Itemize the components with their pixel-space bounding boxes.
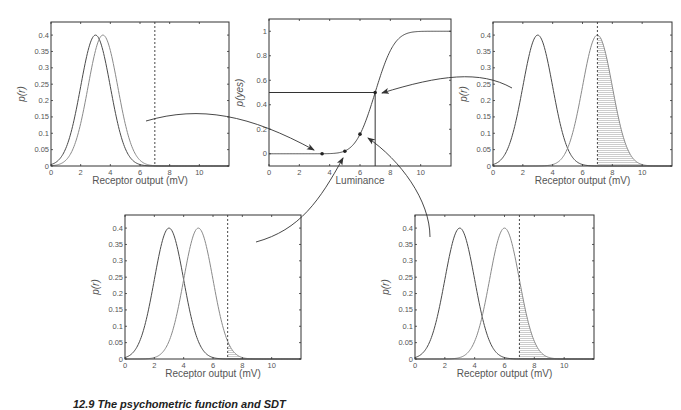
plot-frame: [493, 22, 672, 166]
y-tick-label: 0.2: [39, 96, 49, 105]
y-tick-label: 0.05: [476, 145, 491, 154]
x-tick-label: 2: [152, 361, 156, 370]
hit-area-shading: [519, 280, 594, 359]
x-tick-label: 2: [521, 168, 525, 177]
x-tick-label: 0: [267, 168, 271, 177]
y-tick-label: 0.2: [481, 96, 491, 105]
x-tick-label: 2: [297, 168, 301, 177]
y-tick-label: 0.4: [257, 100, 267, 109]
y-tick-label: 0.1: [403, 322, 413, 331]
y-tick-label: 1: [263, 27, 267, 36]
y-tick-label: 0.15: [398, 305, 413, 314]
panel-top-right: 024681000.050.10.150.20.250.30.350.4Rece…: [458, 22, 672, 186]
noise-distribution-curve: [415, 228, 594, 359]
y-tick-label: 0.35: [108, 240, 123, 249]
y-axis-label: p(r): [90, 279, 101, 296]
y-tick-label: 0.4: [113, 224, 123, 233]
y-tick-label: 0.05: [398, 338, 413, 347]
x-tick-label: 0: [413, 361, 417, 370]
y-tick-label: 0.25: [398, 273, 413, 282]
y-tick-label: 0: [487, 162, 491, 171]
y-tick-label: 0.05: [108, 338, 123, 347]
x-tick-label: 0: [491, 168, 495, 177]
y-axis-label: p(r): [16, 86, 27, 103]
y-tick-label: 0.4: [481, 31, 491, 40]
x-axis-label: Receptor output (mV): [535, 175, 631, 186]
y-tick-label: 0.35: [398, 240, 413, 249]
data-point: [358, 132, 362, 136]
data-point: [373, 91, 377, 95]
x-tick-label: 10: [416, 168, 424, 177]
y-axis-label: p(r): [458, 86, 469, 103]
x-tick-label: 0: [49, 168, 53, 177]
y-tick-label: 0.2: [113, 289, 123, 298]
x-tick-label: 10: [560, 361, 568, 370]
y-tick-label: 0.3: [403, 256, 413, 265]
y-tick-label: 0.2: [403, 289, 413, 298]
data-point: [343, 150, 347, 154]
x-tick-label: 0: [123, 361, 127, 370]
x-tick-label: 2: [79, 168, 83, 177]
noise-distribution-curve: [493, 35, 672, 166]
arrow-bottom-right-to-point-6: [368, 138, 430, 237]
y-tick-label: 0.25: [108, 273, 123, 282]
y-tick-label: 0.25: [34, 80, 49, 89]
y-tick-label: 0.4: [403, 224, 413, 233]
y-tick-label: 0.15: [108, 305, 123, 314]
y-axis-label: p(r): [380, 279, 391, 296]
y-tick-label: 0.3: [481, 63, 491, 72]
x-axis-label: Receptor output (mV): [92, 175, 188, 186]
y-tick-label: 0.6: [257, 76, 267, 85]
panel-bottom-left: 024681000.050.10.150.20.250.30.350.4Rece…: [90, 215, 301, 379]
y-tick-label: 0.15: [476, 112, 491, 121]
hit-area-shading: [597, 35, 672, 166]
y-tick-label: 0.1: [39, 129, 49, 138]
x-axis-label: Receptor output (mV): [457, 368, 553, 379]
x-tick-label: 10: [195, 168, 203, 177]
y-tick-label: 0.35: [34, 47, 49, 56]
y-tick-label: 0: [119, 355, 123, 364]
panel-bottom-right: 024681000.050.10.150.20.250.30.350.4Rece…: [380, 215, 594, 379]
y-tick-label: 0.8: [257, 51, 267, 60]
plot-frame: [125, 215, 301, 359]
y-tick-label: 0: [409, 355, 413, 364]
x-axis-label: Receptor output (mV): [165, 368, 261, 379]
y-tick-label: 0.4: [39, 31, 49, 40]
panel-center: 024681000.20.40.60.81Luminancep(yes): [234, 19, 451, 186]
x-tick-label: 10: [267, 361, 275, 370]
y-tick-label: 0: [45, 162, 49, 171]
x-tick-label: 4: [328, 168, 332, 177]
x-tick-label: 10: [638, 168, 646, 177]
plot-frame: [415, 215, 594, 359]
y-tick-label: 0.15: [34, 112, 49, 121]
x-tick-label: 8: [388, 168, 392, 177]
noise-distribution-curve: [125, 228, 301, 359]
y-tick-label: 0.35: [476, 47, 491, 56]
y-tick-label: 0.3: [113, 256, 123, 265]
panel-top-left: 024681000.050.10.150.20.250.30.350.4Rece…: [16, 22, 229, 186]
y-tick-label: 0.05: [34, 145, 49, 154]
y-tick-label: 0: [263, 149, 267, 158]
y-axis-label: p(yes): [234, 79, 245, 108]
plot-frame: [51, 22, 229, 166]
figure-caption: 12.9 The psychometric function and SDT: [73, 398, 286, 410]
x-tick-label: 2: [443, 361, 447, 370]
x-axis-label: Luminance: [336, 175, 385, 186]
y-tick-label: 0.25: [476, 80, 491, 89]
y-tick-label: 0.1: [113, 322, 123, 331]
noise-distribution-curve: [51, 35, 229, 166]
y-tick-label: 0.1: [481, 129, 491, 138]
y-tick-label: 0.3: [39, 63, 49, 72]
arrow-top-left-to-point-3-5: [146, 114, 314, 150]
data-point: [320, 152, 324, 156]
